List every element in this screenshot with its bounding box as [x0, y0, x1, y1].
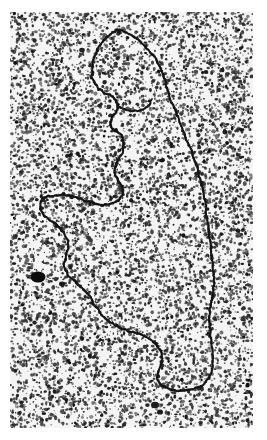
- micrograph-canvas: [10, 12, 253, 428]
- electron-micrograph-image: [10, 12, 253, 428]
- stain-aggregate-small-d: [222, 130, 227, 134]
- figure-root: [0, 0, 267, 440]
- light-smudge-bottom: [86, 391, 174, 423]
- stain-aggregate-small-b: [151, 402, 159, 408]
- stain-aggregate-large: [31, 272, 46, 283]
- stain-aggregate-small-e: [79, 48, 85, 52]
- stain-aggregate-small-f: [204, 70, 209, 74]
- stain-aggregate-small-c: [157, 409, 163, 414]
- stain-aggregate-small-a: [59, 282, 65, 287]
- caption-area: [0, 428, 267, 440]
